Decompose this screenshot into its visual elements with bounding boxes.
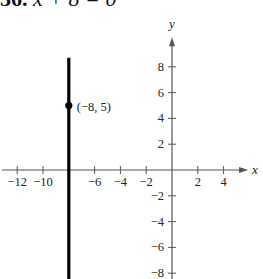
point-label: (−8, 5): [77, 100, 111, 114]
x-tick-label: −4: [114, 175, 128, 189]
x-tick-label: 4: [220, 175, 227, 189]
y-axis-arrow-icon: [169, 37, 175, 46]
y-tick-label: −2: [151, 189, 164, 203]
point-marker: [65, 102, 72, 109]
x-tick-label: −6: [88, 175, 101, 189]
x-axis-label: x: [251, 162, 258, 177]
y-tick-label: −4: [151, 215, 165, 229]
x-tick-label: −2: [140, 175, 153, 189]
y-tick-label: 2: [158, 137, 164, 151]
y-tick-label: −6: [151, 240, 164, 254]
x-tick-label: −12: [7, 175, 27, 189]
y-tick-label: 6: [158, 86, 164, 100]
graph: xy−12−10−6−4−2248642−2−4−6−8(−8, 5): [0, 0, 263, 279]
x-tick-label: 2: [195, 175, 201, 189]
y-tick-label: 4: [158, 111, 165, 125]
x-axis-arrow-icon: [239, 167, 248, 173]
x-tick-label: −10: [33, 175, 53, 189]
y-tick-label: −8: [151, 266, 164, 279]
y-axis-label: y: [167, 16, 175, 31]
y-tick-label: 8: [158, 60, 164, 74]
